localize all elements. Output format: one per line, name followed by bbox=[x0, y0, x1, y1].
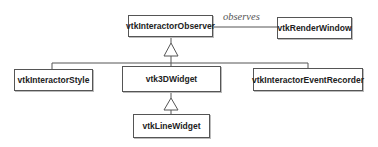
inheritance-arrow-icon bbox=[164, 43, 178, 56]
class-box-interactor-observer: vtkInteractorObserver bbox=[128, 15, 213, 37]
class-name: vtk3DWidget bbox=[146, 74, 197, 84]
class-box-interactor-style: vtkInteractorStyle bbox=[14, 69, 93, 91]
class-box-3d-widget: vtk3DWidget bbox=[122, 66, 221, 92]
class-diagram: vtkInteractorObserver observes vtkRender… bbox=[0, 0, 378, 147]
class-name: vtkInteractorObserver bbox=[126, 21, 215, 31]
class-name: vtkInteractorEventRecorder bbox=[252, 75, 364, 85]
class-box-interactor-event-recorder: vtkInteractorEventRecorder bbox=[253, 68, 363, 91]
class-name: vtkRenderWindow bbox=[277, 23, 351, 33]
class-box-line-widget: vtkLineWidget bbox=[133, 114, 210, 138]
class-name: vtkInteractorStyle bbox=[18, 75, 90, 85]
association-label: observes bbox=[223, 11, 260, 22]
class-name: vtkLineWidget bbox=[142, 121, 200, 131]
inheritance-arrow-icon bbox=[164, 98, 178, 110]
class-box-render-window: vtkRenderWindow bbox=[277, 17, 352, 39]
